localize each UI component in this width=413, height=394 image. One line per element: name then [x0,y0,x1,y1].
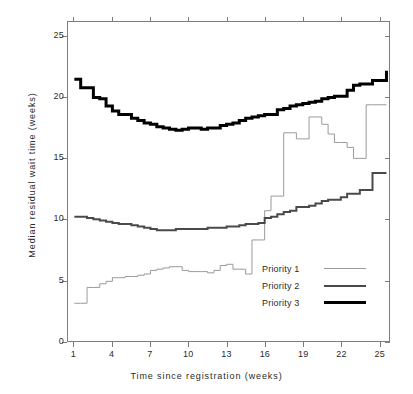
x-tick-label-1: 1 [58,350,88,359]
legend-label-priority-2: Priority 2 [262,281,324,291]
legend-swatch-priority-3 [324,301,366,304]
x-tick-7 [150,342,151,347]
legend-line-priority-2 [324,285,366,287]
legend-label-priority-3: Priority 3 [262,298,324,308]
series-line-priority-3 [74,71,386,131]
x-tick-13 [227,342,228,347]
legend-line-priority-3 [324,301,366,304]
x-tick-mirror-19 [303,17,304,22]
x-tick-label-4: 4 [97,350,127,359]
y-tick-mirror-10 [385,219,390,220]
legend-swatch-priority-1 [324,268,366,269]
x-tick-mirror-22 [341,17,342,22]
x-tick-label-10: 10 [173,350,203,359]
y-tick-mirror-20 [385,97,390,98]
legend-label-priority-1: Priority 1 [262,264,324,274]
x-tick-mirror-16 [265,17,266,22]
x-tick-label-22: 22 [326,350,356,359]
x-tick-10 [188,342,189,347]
y-tick-mirror-25 [385,36,390,37]
x-axis-label: Time since registration (weeks) [0,371,413,381]
x-tick-19 [303,342,304,347]
x-tick-label-7: 7 [135,350,165,359]
y-axis-label: Median residual wait time (weeks) [27,25,37,325]
x-tick-mirror-7 [150,17,151,22]
x-tick-mirror-4 [112,17,113,22]
x-tick-mirror-10 [188,17,189,22]
x-tick-mirror-13 [227,17,228,22]
legend-item-priority-2: Priority 2 [262,277,382,294]
x-tick-label-19: 19 [288,350,318,359]
x-tick-label-16: 16 [250,350,280,359]
x-tick-25 [380,342,381,347]
x-tick-22 [341,342,342,347]
x-tick-label-25: 25 [365,350,395,359]
x-tick-4 [112,342,113,347]
y-tick-mirror-0 [385,342,390,343]
y-tick-mirror-15 [385,158,390,159]
series-line-priority-2 [74,173,386,230]
legend-line-priority-1 [324,268,366,269]
chart-legend: Priority 1 Priority 2 Priority 3 [262,260,382,311]
x-tick-1 [73,342,74,347]
legend-item-priority-3: Priority 3 [262,294,382,311]
x-tick-mirror-25 [380,17,381,22]
legend-item-priority-1: Priority 1 [262,260,382,277]
x-tick-mirror-1 [73,17,74,22]
y-tick-label-0: 0 [24,337,64,346]
chart-figure: 0510152025 147101316192225 Time since re… [0,0,413,394]
x-tick-16 [265,342,266,347]
legend-swatch-priority-2 [324,285,366,287]
y-tick-mirror-5 [385,281,390,282]
x-tick-label-13: 13 [212,350,242,359]
